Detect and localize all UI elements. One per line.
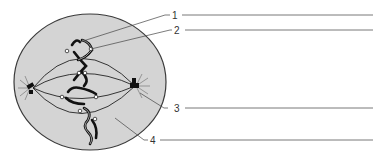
answer-lines	[160, 15, 373, 140]
label-1: 1	[172, 10, 178, 21]
label-3: 3	[174, 103, 180, 114]
mitosis-diagram: 1 2 3 4	[0, 0, 390, 159]
cell-membrane	[14, 14, 166, 150]
label-2: 2	[174, 25, 180, 36]
label-4: 4	[150, 135, 156, 146]
